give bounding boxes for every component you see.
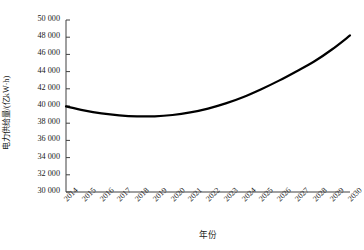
data-series-line: [66, 35, 350, 116]
x-axis-title: 年份: [66, 228, 350, 240]
axes-group: [66, 20, 350, 192]
